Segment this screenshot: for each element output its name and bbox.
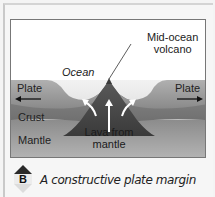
diagram-frame: Mid-ocean volcano Ocean Plate Plate Crus… — [10, 19, 206, 158]
figure-badge-letter: B — [12, 173, 34, 185]
mantle-label: Mantle — [18, 134, 51, 146]
volcano-label-line1: Mid-ocean — [147, 31, 198, 43]
plate-left-label: Plate — [17, 82, 42, 94]
lava-label: Lava from mantle — [83, 126, 135, 150]
caption-text: A constructive plate margin — [40, 173, 196, 187]
lava-label-line2: mantle — [83, 138, 135, 150]
volcano-label-line2: volcano — [147, 43, 198, 55]
plate-right-label: Plate — [175, 82, 200, 94]
figure-caption: B A constructive plate margin — [12, 165, 212, 193]
crust-label: Crust — [18, 111, 44, 123]
volcano-label: Mid-ocean volcano — [147, 31, 198, 55]
lava-label-line1: Lava from — [83, 126, 135, 138]
ocean-label: Ocean — [62, 66, 94, 78]
